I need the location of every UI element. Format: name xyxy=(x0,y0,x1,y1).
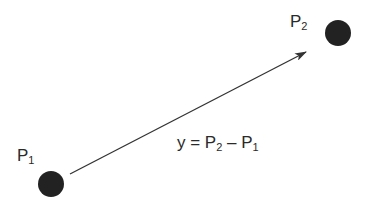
vector-arrow xyxy=(70,52,306,174)
point-p1 xyxy=(38,171,64,197)
equation-label: y = P2 – P1 xyxy=(177,134,259,153)
equation-op: – P xyxy=(222,133,252,152)
diagram-canvas xyxy=(0,0,374,211)
label-p2: P2 xyxy=(290,13,307,32)
label-p2-text: P xyxy=(290,12,301,31)
label-p1-text: P xyxy=(17,146,28,165)
label-p1-sub: 1 xyxy=(28,154,34,166)
equation-lhs: y = P xyxy=(177,133,216,152)
point-p2 xyxy=(325,20,351,46)
label-p1: P1 xyxy=(17,147,34,166)
label-p2-sub: 2 xyxy=(301,20,307,32)
equation-sub-b: 1 xyxy=(253,141,259,153)
